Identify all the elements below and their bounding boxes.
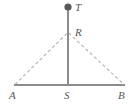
segment-RB bbox=[69, 33, 124, 85]
point-label-T: T bbox=[75, 2, 81, 13]
point-label-A: A bbox=[9, 90, 16, 101]
geometry-figure: T R A S B bbox=[0, 0, 136, 107]
segment-AR bbox=[15, 33, 67, 85]
point-label-R: R bbox=[75, 27, 82, 38]
point-marker-T bbox=[64, 3, 71, 10]
point-label-B: B bbox=[118, 90, 125, 101]
point-label-S: S bbox=[64, 90, 70, 101]
